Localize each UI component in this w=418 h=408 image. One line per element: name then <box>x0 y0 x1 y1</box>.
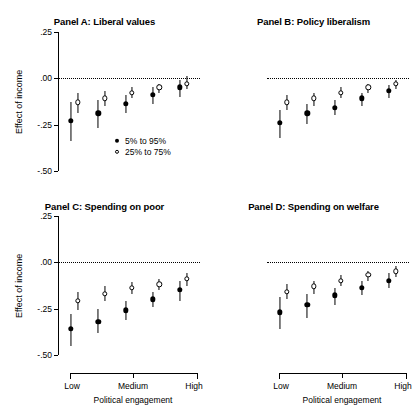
data-point-25-75 <box>284 99 289 104</box>
panel-d: Panel D: Spending on welfareLowMediumHig… <box>209 185 418 408</box>
y-axis-tick <box>54 125 58 126</box>
data-point-25-75 <box>393 81 398 86</box>
data-point-5-95 <box>386 88 391 93</box>
y-axis-tick <box>54 32 58 33</box>
panel-c: Panel C: Spending on poor.25.00-.25-.50E… <box>0 185 209 408</box>
y-axis-tick <box>54 355 58 356</box>
data-point-5-95 <box>305 111 310 116</box>
data-point-25-75 <box>184 276 189 281</box>
data-point-25-75 <box>284 289 289 294</box>
data-point-5-95 <box>386 278 391 283</box>
panel-b: Panel B: Policy liberalism <box>209 0 418 185</box>
y-axis-tick-label: -.25 <box>24 304 52 314</box>
data-point-25-75 <box>157 282 162 287</box>
data-point-5-95 <box>123 308 128 313</box>
y-axis-line <box>58 216 59 356</box>
data-point-25-75 <box>129 90 134 95</box>
data-point-25-75 <box>311 96 316 101</box>
y-axis-tick-label: .25 <box>24 211 52 221</box>
data-point-25-75 <box>338 90 343 95</box>
y-axis-tick-label: .25 <box>24 27 52 37</box>
legend-marker-filled-circle-icon <box>115 138 119 142</box>
legend-marker-open-circle-icon <box>115 149 119 153</box>
data-point-5-95 <box>332 105 337 110</box>
x-axis-label: Political engagement <box>94 395 173 405</box>
zero-reference-line <box>267 262 409 263</box>
panel-title-a: Panel A: Liberal values <box>0 16 209 27</box>
data-point-25-75 <box>338 278 343 283</box>
y-axis-line <box>58 32 59 172</box>
data-point-5-95 <box>96 111 101 116</box>
data-point-25-75 <box>102 96 107 101</box>
legend-label: 25% to 75% <box>125 147 171 157</box>
data-point-25-75 <box>366 272 371 277</box>
x-axis-tick-medium <box>133 373 134 378</box>
y-axis-tick-label: .00 <box>24 257 52 267</box>
data-point-5-95 <box>359 96 364 101</box>
x-axis-tick-label: Medium <box>327 381 357 391</box>
x-axis-tick-label: High <box>394 381 411 391</box>
y-axis-tick-label: .00 <box>24 73 52 83</box>
y-axis-tick <box>54 309 58 310</box>
data-point-5-95 <box>277 120 282 125</box>
x-axis-tick-label: High <box>185 381 202 391</box>
data-point-5-95 <box>150 92 155 97</box>
data-point-25-75 <box>75 99 80 104</box>
data-point-5-95 <box>332 293 337 298</box>
panel-title-b: Panel B: Policy liberalism <box>209 16 418 27</box>
data-point-5-95 <box>123 101 128 106</box>
data-point-5-95 <box>68 326 73 331</box>
data-point-5-95 <box>177 85 182 90</box>
y-axis-label: Effect of income <box>14 70 24 134</box>
panel-title-d: Panel D: Spending on welfare <box>209 201 418 212</box>
panel-a: Panel A: Liberal values.25.00-.25-.50Eff… <box>0 0 209 185</box>
data-point-25-75 <box>184 81 189 86</box>
data-point-5-95 <box>177 287 182 292</box>
data-point-25-75 <box>393 269 398 274</box>
data-point-25-75 <box>311 283 316 288</box>
y-axis-tick <box>54 216 58 217</box>
zero-reference-line <box>58 78 200 79</box>
data-point-25-75 <box>366 85 371 90</box>
data-point-5-95 <box>68 118 73 123</box>
x-axis-tick-medium <box>342 373 343 378</box>
y-axis-tick-label: -.50 <box>24 166 52 176</box>
data-point-25-75 <box>102 291 107 296</box>
figure-multi-panel-chart: Panel A: Liberal values.25.00-.25-.50Eff… <box>0 0 418 408</box>
data-point-5-95 <box>150 296 155 301</box>
data-point-5-95 <box>277 310 282 315</box>
x-axis-tick-label: Medium <box>118 381 148 391</box>
x-axis-tick-label: Low <box>64 381 80 391</box>
x-axis-label: Political engagement <box>303 395 382 405</box>
x-axis-bracket <box>70 373 198 379</box>
x-axis-tick-label: Low <box>273 381 289 391</box>
zero-reference-line <box>267 78 409 79</box>
data-point-25-75 <box>129 285 134 290</box>
zero-reference-line <box>58 262 200 263</box>
data-point-25-75 <box>75 298 80 303</box>
data-point-5-95 <box>305 302 310 307</box>
y-axis-tick <box>54 171 58 172</box>
legend-label: 5% to 95% <box>125 136 166 146</box>
data-point-5-95 <box>359 285 364 290</box>
y-axis-tick-label: -.25 <box>24 120 52 130</box>
y-axis-tick-label: -.50 <box>24 350 52 360</box>
data-point-25-75 <box>157 85 162 90</box>
x-axis-bracket <box>279 373 407 379</box>
y-axis-label: Effect of income <box>14 254 24 318</box>
data-point-5-95 <box>96 319 101 324</box>
